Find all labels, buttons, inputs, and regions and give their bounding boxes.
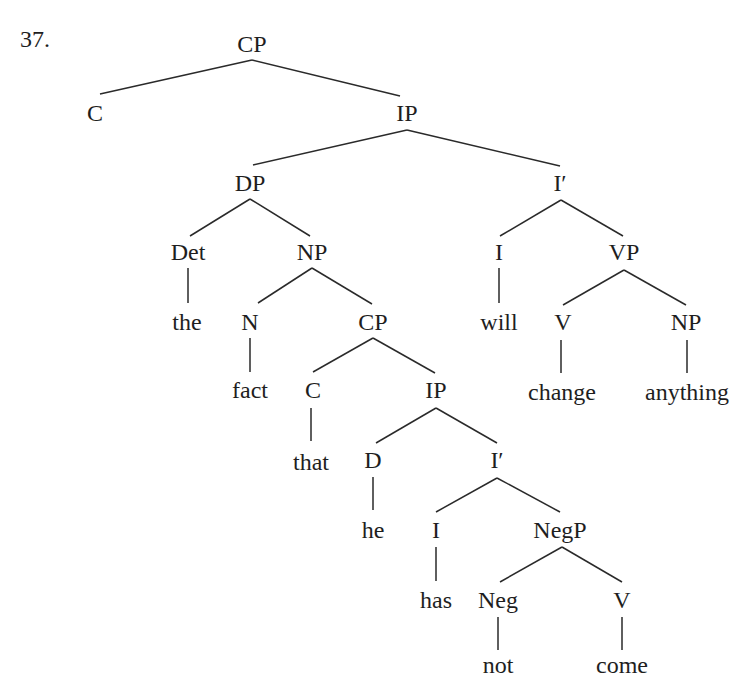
tree-edge <box>258 268 312 303</box>
tree-edge <box>436 408 497 443</box>
tree-node-np1: NP <box>297 240 328 264</box>
tree-node-cp2: CP <box>358 310 387 334</box>
tree-edge <box>624 270 686 305</box>
tree-node-anything: anything <box>645 380 729 404</box>
tree-node-vp: VP <box>609 240 640 264</box>
tree-node-he: he <box>362 518 385 542</box>
tree-edge <box>312 268 372 304</box>
tree-node-the: the <box>172 310 201 334</box>
tree-node-c2: C <box>305 378 321 402</box>
tree-node-neg: Neg <box>478 588 518 612</box>
tree-node-ip1: IP <box>396 101 417 125</box>
tree-node-np2: NP <box>671 310 702 334</box>
tree-node-that: that <box>293 450 329 474</box>
tree-edge <box>561 200 623 236</box>
tree-node-n: N <box>241 310 258 334</box>
tree-edge <box>373 338 435 373</box>
tree-node-ibar2: I′ <box>490 448 503 472</box>
tree-node-fact: fact <box>232 378 268 402</box>
tree-node-negp: NegP <box>533 518 586 542</box>
tree-edge <box>100 60 252 94</box>
tree-edge <box>250 199 310 236</box>
tree-node-dp: DP <box>235 171 266 195</box>
tree-node-change: change <box>528 380 596 404</box>
tree-node-ip2: IP <box>425 378 446 402</box>
tree-edge <box>500 200 561 236</box>
tree-edge <box>500 547 562 582</box>
tree-node-c1: C <box>87 101 103 125</box>
tree-edge <box>376 408 436 443</box>
tree-node-will: will <box>480 310 517 334</box>
tree-edges <box>0 0 752 678</box>
tree-node-has: has <box>420 588 452 612</box>
tree-edge <box>190 199 250 236</box>
tree-node-cp1: CP <box>237 32 266 56</box>
tree-node-v2: V <box>613 588 630 612</box>
tree-edge <box>252 60 400 96</box>
tree-node-come: come <box>596 653 648 677</box>
tree-node-v1: V <box>554 310 571 334</box>
tree-node-i2: I <box>432 518 440 542</box>
tree-edge <box>313 338 373 372</box>
tree-edge <box>497 478 560 512</box>
tree-edge <box>436 478 497 512</box>
tree-node-d: D <box>364 448 381 472</box>
example-number: 37. <box>20 27 50 51</box>
tree-edge <box>562 547 622 582</box>
tree-node-ibar1: I′ <box>553 171 566 195</box>
tree-node-det: Det <box>171 240 206 264</box>
tree-node-i1: I <box>495 240 503 264</box>
tree-edge <box>253 130 407 165</box>
tree-edge <box>407 130 560 166</box>
tree-edge <box>563 270 624 305</box>
tree-node-not: not <box>483 653 514 677</box>
